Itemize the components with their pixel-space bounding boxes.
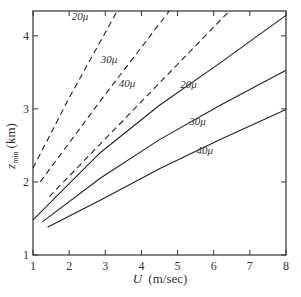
y-tick-label: 3 xyxy=(23,102,29,116)
curve-labels: 20μ30μ40μ20μ30μ40μ xyxy=(72,10,214,156)
curve-solid-20mu xyxy=(33,15,286,220)
curve-solid-40mu xyxy=(48,110,287,228)
x-tick-label: 1 xyxy=(30,259,36,273)
x-tick-label: 6 xyxy=(211,259,217,273)
y-tick-label: 1 xyxy=(23,248,29,262)
curve-label: 40μ xyxy=(196,144,213,156)
y-tick-label: 2 xyxy=(23,175,29,189)
y-axis-label: zmin(km) xyxy=(3,123,20,170)
plot-border xyxy=(33,11,286,255)
curve-dashed-30mu xyxy=(40,11,169,182)
curve-solid-30mu xyxy=(42,70,286,222)
plot-frame xyxy=(33,11,286,255)
x-axis-label: U (m/sec) xyxy=(133,271,188,286)
chart: 123456781234 20μ30μ40μ20μ30μ40μ U (m/sec… xyxy=(0,0,301,297)
curve-label: 30μ xyxy=(188,115,206,127)
x-tick-label: 7 xyxy=(247,259,253,273)
x-tick-label: 8 xyxy=(283,259,289,273)
curve-label: 20μ xyxy=(72,10,89,22)
curve-label: 40μ xyxy=(119,77,136,89)
x-tick-label: 3 xyxy=(102,259,108,273)
y-tick-label: 4 xyxy=(23,29,29,43)
curve-dashed-20mu xyxy=(33,11,117,168)
curve-dashed-40mu xyxy=(49,11,229,197)
curve-label: 20μ xyxy=(180,78,197,90)
curve-label: 30μ xyxy=(100,53,118,65)
curves xyxy=(33,11,286,227)
x-tick-label: 2 xyxy=(66,259,72,273)
